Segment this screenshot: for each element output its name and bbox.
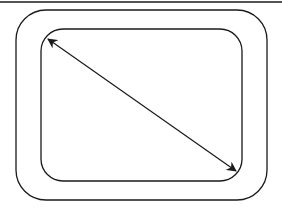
diagonal-double-arrow [48,39,236,171]
diagram-canvas [0,0,282,215]
